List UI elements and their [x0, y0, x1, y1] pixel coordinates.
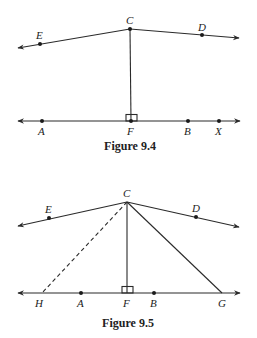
label-G: G	[218, 297, 226, 309]
label-B: B	[150, 297, 157, 309]
label-H: H	[34, 297, 44, 309]
point-F	[129, 119, 133, 123]
point-A	[79, 291, 83, 295]
point-B	[186, 119, 190, 123]
label-E: E	[35, 29, 43, 41]
ray-CE	[18, 29, 130, 48]
label-F: F	[122, 297, 130, 309]
label-A: A	[37, 125, 45, 137]
point-D	[194, 215, 198, 219]
label-X: X	[214, 125, 223, 137]
label-C: C	[123, 187, 131, 199]
segment-CG	[127, 202, 222, 293]
label-C: C	[126, 14, 134, 26]
segment-CF	[130, 29, 131, 121]
point-E	[47, 216, 51, 220]
dashed-segment-CH	[42, 202, 127, 293]
point-E	[38, 42, 42, 46]
point-X	[217, 119, 221, 123]
label-F: F	[126, 125, 134, 137]
point-D	[200, 33, 204, 37]
caption-figure-9-4: Figure 9.4	[104, 139, 156, 153]
point-C	[128, 27, 132, 31]
point-B	[152, 291, 156, 295]
ray-CD	[127, 202, 239, 227]
ray-CD	[130, 29, 239, 38]
label-E: E	[44, 203, 52, 215]
figure-9-4: C E D A F B X Figure 9.4	[18, 14, 240, 153]
figure-9-5: C E D H A F B G Figure 9.5	[18, 187, 240, 330]
label-B: B	[184, 125, 191, 137]
caption-figure-9-5: Figure 9.5	[102, 316, 154, 330]
geometry-figures: C E D A F B X Figure 9.4 C E D H A F B G…	[0, 0, 257, 338]
label-D: D	[191, 202, 200, 214]
label-A: A	[76, 297, 84, 309]
label-D: D	[197, 21, 206, 33]
ray-CE	[18, 202, 127, 226]
point-A	[40, 119, 44, 123]
